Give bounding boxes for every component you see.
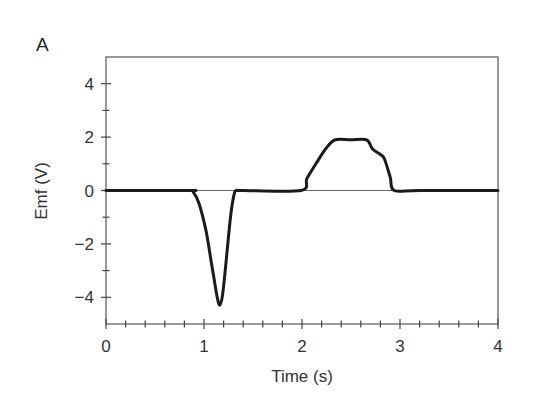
tick-labels: 01234−4−2024 xyxy=(75,75,503,356)
y-tick-label: −2 xyxy=(75,235,94,254)
y-axis-title: Emf (V) xyxy=(32,162,51,220)
x-tick-label: 0 xyxy=(101,337,110,356)
x-axis-title: Time (s) xyxy=(271,367,333,386)
axis-ticks xyxy=(101,84,498,329)
y-tick-label: 4 xyxy=(85,75,94,94)
x-tick-label: 3 xyxy=(395,337,404,356)
emf-time-chart: 01234−4−2024 Time (s) Emf (V) xyxy=(0,0,533,408)
emf-series-line xyxy=(106,139,498,305)
y-tick-label: −4 xyxy=(75,288,94,307)
x-tick-label: 1 xyxy=(199,337,208,356)
data-series xyxy=(106,139,498,305)
y-tick-label: 2 xyxy=(85,128,94,147)
y-tick-label: 0 xyxy=(85,182,94,201)
x-tick-label: 2 xyxy=(297,337,306,356)
x-tick-label: 4 xyxy=(493,337,502,356)
